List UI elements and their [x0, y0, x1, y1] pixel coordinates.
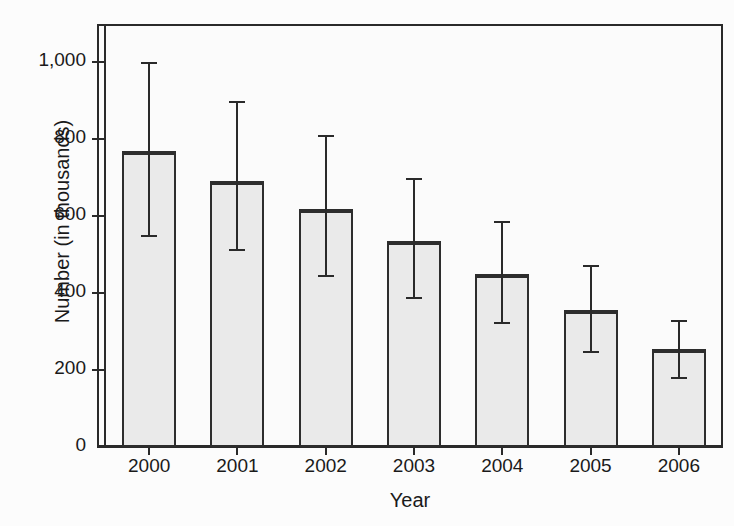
- y-axis-line: [104, 24, 106, 448]
- error-bar-line: [590, 265, 592, 351]
- x-axis-tick: [590, 448, 592, 455]
- error-bar-line: [148, 62, 150, 235]
- error-bar-line: [413, 178, 415, 297]
- error-bar-cap-upper: [671, 320, 687, 322]
- x-axis-tick: [413, 448, 415, 455]
- error-bar-cap-upper: [229, 101, 245, 103]
- error-bar-cap-lower: [318, 275, 334, 277]
- x-axis-tick-label: 2001: [193, 455, 281, 477]
- x-axis-tick-label: 2005: [546, 455, 634, 477]
- error-bar-line: [678, 320, 680, 377]
- bar-chart-figure: 02004006008001,000 200020012002200320042…: [0, 0, 734, 526]
- x-axis-tick: [678, 448, 680, 455]
- x-axis-tick-label: 2002: [282, 455, 370, 477]
- x-axis-tick-label: 2006: [635, 455, 723, 477]
- error-bar-cap-lower: [494, 322, 510, 324]
- error-bar-cap-upper: [406, 178, 422, 180]
- error-bar-line: [325, 135, 327, 274]
- y-axis-tick-label: 0: [0, 434, 86, 456]
- x-axis-tick-label: 2003: [370, 455, 458, 477]
- y-axis-title: Number (in thousands): [51, 72, 74, 372]
- error-bar-cap-lower: [583, 351, 599, 353]
- y-axis-tick: [92, 61, 104, 63]
- error-bar-cap-lower: [141, 235, 157, 237]
- x-axis-tick: [236, 448, 238, 455]
- x-axis-tick: [501, 448, 503, 455]
- y-axis-tick: [92, 138, 104, 140]
- error-bar-cap-upper: [583, 265, 599, 267]
- y-axis-tick: [92, 369, 104, 371]
- x-axis-tick-label: 2004: [458, 455, 546, 477]
- error-bar-cap-upper: [141, 62, 157, 64]
- x-axis-tick: [148, 448, 150, 455]
- error-bar-line: [236, 101, 238, 248]
- x-axis-tick: [325, 448, 327, 455]
- error-bar-cap-lower: [671, 377, 687, 379]
- error-bar-cap-lower: [406, 297, 422, 299]
- y-axis-tick: [92, 292, 104, 294]
- y-axis-tick-label: 1,000: [0, 49, 86, 71]
- error-bar-cap-upper: [494, 221, 510, 223]
- error-bar-cap-upper: [318, 135, 334, 137]
- error-bar-line: [501, 221, 503, 322]
- y-axis-tick: [92, 215, 104, 217]
- x-axis-title: Year: [97, 489, 723, 512]
- x-axis-tick-label: 2000: [105, 455, 193, 477]
- error-bar-cap-lower: [229, 249, 245, 251]
